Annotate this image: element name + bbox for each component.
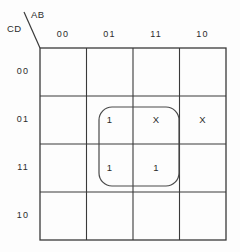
axis-label-rows: CD xyxy=(7,24,21,34)
karnaugh-map-diagram: AB CD 00 01 11 10 00 01 11 10 1 X X 1 1 xyxy=(0,0,240,252)
axis-label-columns: AB xyxy=(31,10,44,20)
cell-r11-c10 xyxy=(180,162,226,174)
column-header-00: 00 xyxy=(40,30,86,39)
cell-r10-c10 xyxy=(180,210,226,222)
cell-r00-c11 xyxy=(133,66,179,78)
row-header-11: 11 xyxy=(10,163,36,172)
row-header-00: 00 xyxy=(10,67,36,76)
cell-r11-c00 xyxy=(40,162,86,174)
cell-r10-c01 xyxy=(87,210,133,222)
column-header-01: 01 xyxy=(87,30,133,39)
cell-r11-c01: 1 xyxy=(87,162,133,174)
cell-r10-c11 xyxy=(133,210,179,222)
cell-r11-c11: 1 xyxy=(133,162,179,174)
cell-r10-c00 xyxy=(40,210,86,222)
cell-r00-c00 xyxy=(40,66,86,78)
cell-r01-c11: X xyxy=(133,114,179,126)
row-header-01: 01 xyxy=(10,115,36,124)
cell-r00-c01 xyxy=(87,66,133,78)
column-header-11: 11 xyxy=(133,30,179,39)
cell-r01-c00 xyxy=(40,114,86,126)
row-header-10: 10 xyxy=(10,211,36,220)
cell-r01-c01: 1 xyxy=(87,114,133,126)
cell-r00-c10 xyxy=(180,66,226,78)
cell-r01-c10: X xyxy=(180,114,226,126)
column-header-10: 10 xyxy=(180,30,226,39)
